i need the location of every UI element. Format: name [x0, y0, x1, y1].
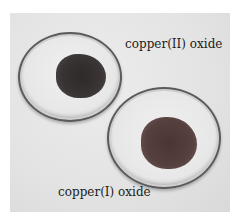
photo: copper(II) oxide copper(I) oxide [10, 13, 230, 212]
copper-ii-oxide-powder [56, 54, 106, 98]
dish-copper-ii-oxide [18, 32, 122, 122]
label-copper-ii-oxide: copper(II) oxide [125, 37, 222, 51]
copper-i-oxide-powder [141, 117, 197, 169]
dish-copper-i-oxide [107, 87, 221, 189]
label-copper-i-oxide: copper(I) oxide [58, 185, 151, 199]
